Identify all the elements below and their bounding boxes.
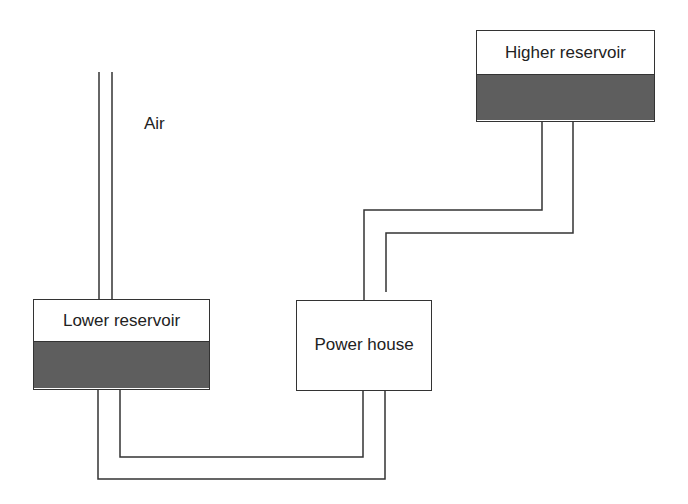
tailrace-inner-wall: [120, 389, 363, 457]
higher-reservoir-water: [477, 74, 654, 120]
penstock-inner-wall: [386, 121, 573, 292]
tailrace-outer-wall: [98, 389, 385, 479]
penstock-outer-wall: [364, 121, 542, 300]
lower-reservoir: Lower reservoir: [33, 299, 210, 390]
power-house: Power house: [296, 300, 432, 391]
higher-reservoir: Higher reservoir: [476, 30, 655, 122]
lower-reservoir-label: Lower reservoir: [34, 300, 209, 341]
power-house-label: Power house: [297, 301, 431, 389]
lower-reservoir-water: [34, 341, 209, 388]
air-label: Air: [144, 114, 165, 134]
higher-reservoir-label: Higher reservoir: [477, 31, 654, 74]
